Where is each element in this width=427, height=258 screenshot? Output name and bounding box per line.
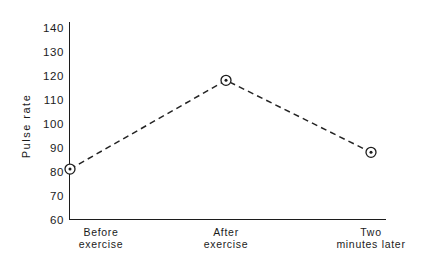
chart-canvas: Pulse rate 140 130 120 110 100 90 80 70 … (0, 0, 427, 258)
data-point-after-exercise (221, 75, 231, 85)
x-category-label-after-exercise-line1: After (213, 226, 239, 238)
y-tick-label-70: 70 (50, 190, 64, 202)
y-tick-label-120: 120 (43, 70, 64, 82)
y-tick-label-80: 80 (50, 166, 64, 178)
y-axis-title: Pulse rate (20, 94, 32, 159)
data-point-two-minutes-later (366, 147, 376, 157)
y-tick-label-110: 110 (44, 94, 64, 106)
x-category-label-two-minutes-later-line1: Two (360, 226, 381, 238)
series-line-pulse-rate (70, 80, 371, 169)
x-category-label-before-exercise-line2: exercise (79, 238, 124, 250)
y-tick-label-60: 60 (50, 214, 64, 226)
x-category-label-after-exercise-line2: exercise (204, 238, 249, 250)
data-point-before-exercise (65, 164, 75, 174)
y-tick-label-130: 130 (43, 46, 64, 58)
y-tick-label-100: 100 (43, 118, 64, 130)
y-tick-label-90: 90 (50, 142, 64, 154)
y-tick-label-140: 140 (43, 22, 64, 34)
pulse-rate-chart: Pulse rate 140 130 120 110 100 90 80 70 … (0, 0, 427, 258)
x-category-label-before-exercise-line1: Before (83, 226, 118, 238)
x-category-label-two-minutes-later-line2: minutes later (336, 238, 405, 250)
